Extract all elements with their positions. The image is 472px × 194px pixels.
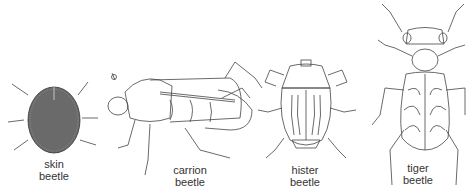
label-line2: beetle [388,174,448,186]
carrion-beetle-drawing [108,62,262,175]
label-line1: hister [275,164,335,176]
label-line2: beetle [160,176,220,188]
label-line2: beetle [275,176,335,188]
skin-beetle-label: skin beetle [24,158,84,182]
label-line1: tiger [388,162,448,174]
hister-beetle-drawing [258,60,356,158]
label-line2: beetle [24,170,84,182]
carrion-beetle-label: carrion beetle [160,164,220,188]
tiger-beetle-label: tiger beetle [388,162,448,186]
label-line1: skin [24,158,84,170]
hister-beetle-label: hister beetle [275,164,335,188]
beetle-figure: skin beetle carrion beetle hister beetle… [0,0,472,194]
label-line1: carrion [160,164,220,176]
skin-beetle-drawing [8,82,98,153]
tiger-beetle-drawing [372,4,465,185]
